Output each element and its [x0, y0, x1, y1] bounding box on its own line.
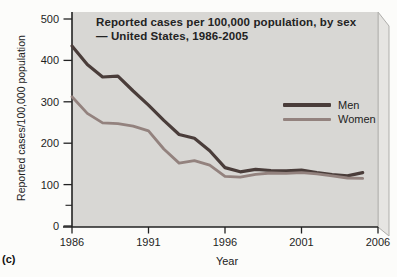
y-tick-label: 100 — [41, 179, 59, 191]
chart-title-line2: — United States, 1986-2005 — [96, 30, 356, 44]
x-tick-label: 1996 — [213, 236, 237, 248]
legend-item-women: Women — [283, 112, 376, 126]
chart-title-line1: Reported cases per 100,000 population, b… — [96, 16, 356, 30]
y-tick-label: 400 — [41, 54, 59, 66]
y-axis-ticks: 0100200300400500 — [41, 13, 72, 232]
y-tick-label: 500 — [41, 13, 59, 25]
x-tick-label: 1991 — [136, 236, 160, 248]
x-axis-label: Year — [197, 255, 257, 267]
men-line-swatch — [283, 103, 331, 107]
y-tick-label: 0 — [53, 220, 59, 232]
legend-label-men: Men — [338, 99, 359, 111]
legend-item-men: Men — [283, 98, 376, 112]
figure-panel-label: (c) — [2, 253, 15, 265]
plot-slab-side — [378, 12, 389, 236]
legend: Men Women — [283, 98, 376, 126]
women-line-swatch — [283, 118, 331, 121]
x-axis-ticks: 19861991199620012006 — [60, 227, 390, 248]
legend-label-women: Women — [338, 113, 376, 125]
chart-figure: 0100200300400500 19861991199620012006 Re… — [0, 0, 397, 277]
x-tick-label: 2006 — [366, 236, 390, 248]
x-tick-label: 1986 — [60, 236, 84, 248]
y-axis-label: Reported cases/100,000 population — [15, 28, 27, 208]
chart-title: Reported cases per 100,000 population, b… — [96, 16, 356, 43]
x-tick-label: 2001 — [289, 236, 313, 248]
y-tick-label: 200 — [41, 137, 59, 149]
y-tick-label: 300 — [41, 96, 59, 108]
